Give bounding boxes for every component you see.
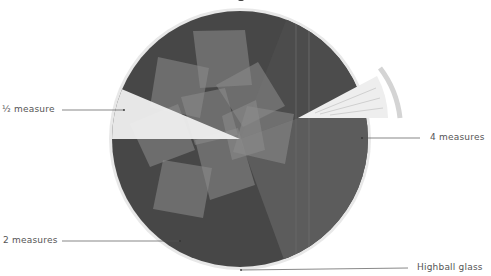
label-four-measures: 4 measures bbox=[430, 132, 485, 142]
label-two-measures: 2 measures bbox=[3, 235, 58, 245]
glass-illustration bbox=[0, 0, 491, 276]
label-half-measure: ½ measure bbox=[2, 104, 55, 114]
label-highball-glass: Highball glass bbox=[417, 262, 483, 272]
ice-cube bbox=[153, 160, 212, 218]
cocktail-diagram: ½ measure 4 measures 2 measures Highball… bbox=[0, 0, 491, 276]
leader-glass bbox=[241, 268, 408, 270]
